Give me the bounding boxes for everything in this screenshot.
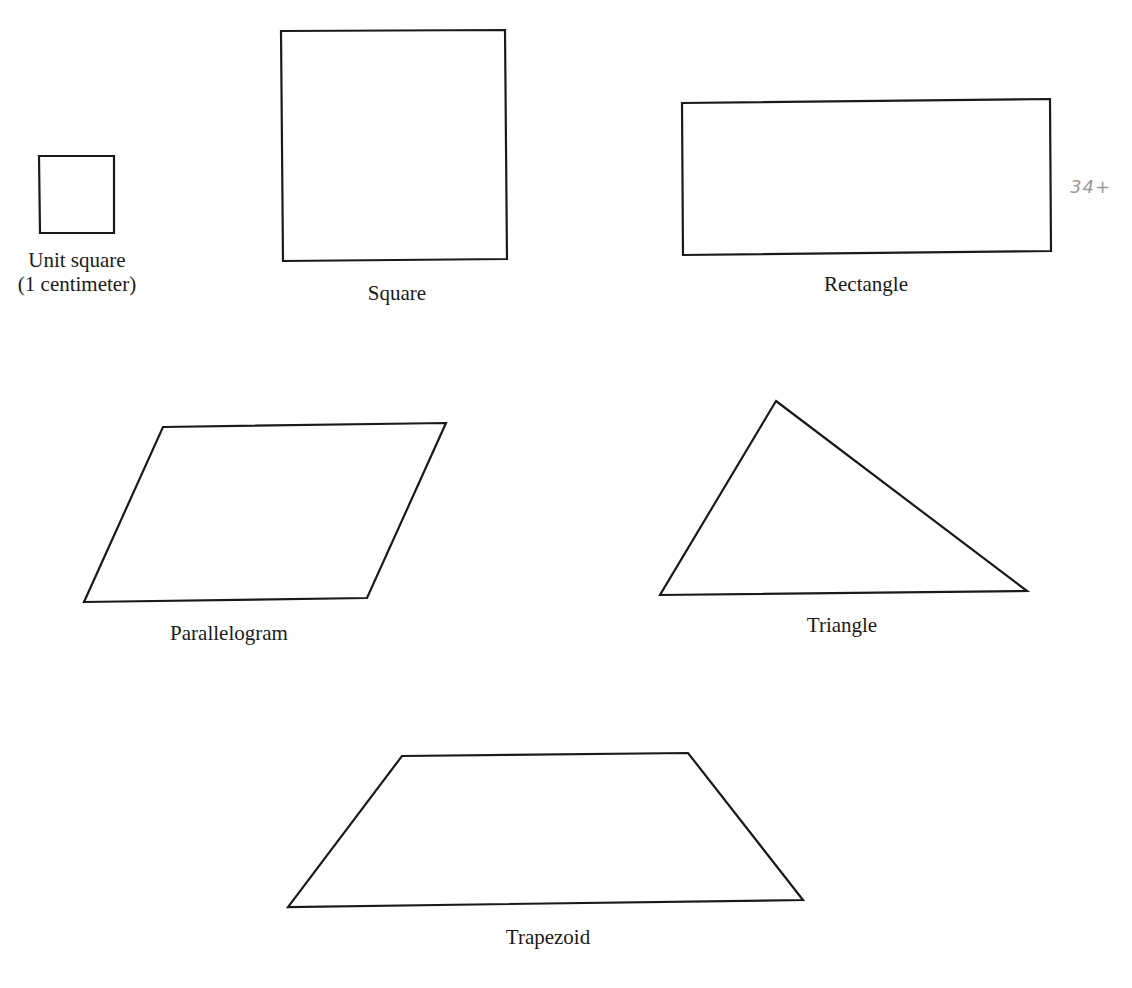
unit-square-label: Unit square (1 centimeter) <box>18 248 136 296</box>
parallelogram-label: Parallelogram <box>170 621 288 645</box>
triangle-shape <box>660 401 1027 595</box>
square-shape <box>281 30 507 261</box>
rectangle-shape <box>682 99 1051 255</box>
handwritten-note: 34+ <box>1070 176 1111 197</box>
rectangle-label: Rectangle <box>824 272 908 296</box>
unit-square-label-line2: (1 centimeter) <box>18 272 136 296</box>
trapezoid-shape <box>288 753 803 907</box>
unit-square-shape <box>39 156 114 233</box>
shapes-diagram <box>0 0 1132 988</box>
square-label: Square <box>368 281 426 305</box>
unit-square-label-line1: Unit square <box>18 248 136 272</box>
triangle-label: Triangle <box>807 613 877 637</box>
parallelogram-shape <box>84 423 446 602</box>
trapezoid-label: Trapezoid <box>506 925 590 949</box>
